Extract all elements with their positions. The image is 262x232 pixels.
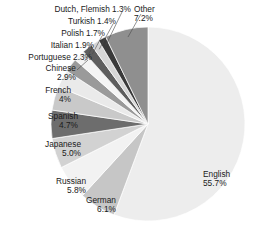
slice-label-polish: Polish 1.7%	[61, 29, 105, 38]
slice-label-polish-name: Polish 1.7%	[61, 29, 105, 38]
slice-label-german: German 6.1%	[86, 196, 116, 215]
slice-label-dutch-flemish-name: Dutch, Flemish 1.3%	[54, 5, 131, 14]
slice-label-portuguese-name: Portuguese 2.3%	[28, 53, 92, 62]
pie-chart	[0, 0, 262, 232]
slice-label-chinese-value: 2.9%	[46, 73, 76, 82]
slice-label-french-value: 4%	[45, 95, 71, 104]
slice-label-dutch-flemish: Dutch, Flemish 1.3%	[54, 5, 131, 14]
slice-label-german-value: 6.1%	[86, 205, 116, 214]
slice-label-italian: Italian 1.9%	[51, 41, 94, 50]
slice-label-french: French 4%	[45, 86, 71, 105]
slice-label-portuguese: Portuguese 2.3%	[28, 53, 92, 62]
slice-label-english: English 55.7%	[203, 170, 230, 189]
slice-label-other: Other 7.2%	[134, 5, 155, 24]
slice-label-japanese-value: 5.0%	[45, 149, 81, 158]
slice-label-other-value: 7.2%	[134, 14, 155, 23]
chart-canvas: INTERNET SOFTWARE BY LANGUAGE English 55…	[0, 0, 262, 232]
slice-label-italian-name: Italian 1.9%	[51, 41, 94, 50]
slice-label-chinese: Chinese 2.9%	[46, 64, 76, 83]
slice-label-spanish: Spanish 4.7%	[48, 112, 78, 131]
slice-label-turkish-name: Turkish 1.4%	[68, 17, 116, 26]
slice-label-russian-value: 5.8%	[56, 186, 86, 195]
slice-label-spanish-value: 4.7%	[48, 121, 78, 130]
slice-label-english-value: 55.7%	[203, 179, 230, 188]
slice-label-turkish: Turkish 1.4%	[68, 17, 116, 26]
slice-label-russian: Russian 5.8%	[56, 177, 86, 196]
slice-label-japanese: Japanese 5.0%	[45, 140, 81, 159]
